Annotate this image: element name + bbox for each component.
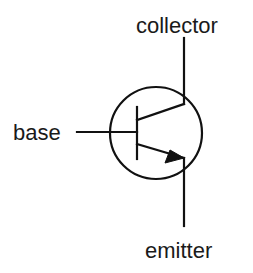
emitter-arrow-icon: [165, 150, 184, 163]
collector-diagonal: [137, 104, 184, 120]
emitter-label: emitter: [145, 238, 212, 263]
transistor-diagram: collector base emitter: [0, 0, 253, 273]
base-label: base: [13, 120, 61, 145]
collector-label: collector: [136, 13, 218, 38]
